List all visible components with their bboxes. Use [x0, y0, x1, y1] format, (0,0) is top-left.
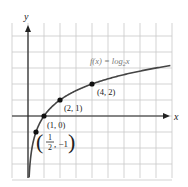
x-axis-label: x — [173, 111, 179, 122]
y-axis-arrow-icon — [25, 25, 31, 32]
point-label-2-1: (2, 1) — [64, 103, 83, 113]
svg-text:, −1: , −1 — [54, 139, 68, 149]
point-label-half-neg1: ( 1 2 , −1 ) — [36, 129, 75, 154]
svg-text:1: 1 — [48, 133, 52, 142]
svg-text:(: ( — [36, 129, 43, 154]
data-point — [57, 97, 62, 102]
log-function-chart: x y f(x) = log2x (4, 2) (2, 1) (1, 0) ( … — [0, 0, 188, 187]
y-axis-label: y — [23, 11, 29, 22]
svg-text:2: 2 — [48, 143, 52, 152]
point-label-1-0: (1, 0) — [47, 120, 66, 130]
data-point — [41, 113, 46, 118]
data-point — [89, 81, 94, 86]
grid — [12, 23, 172, 180]
svg-text:): ) — [68, 129, 75, 154]
point-label-4-2: (4, 2) — [97, 87, 116, 97]
x-axis-arrow-icon — [163, 113, 170, 119]
